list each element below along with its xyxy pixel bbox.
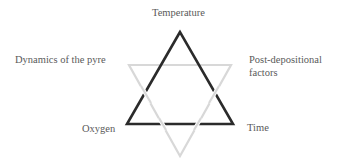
label-post-depositional-line1: Post-depositional	[249, 53, 322, 66]
hexagram-diagram	[0, 0, 345, 159]
label-temperature: Temperature	[152, 6, 205, 19]
label-time: Time	[247, 121, 269, 134]
label-dynamics-of-the-pyre: Dynamics of the pyre	[15, 53, 106, 66]
label-oxygen: Oxygen	[82, 122, 115, 135]
light-triangle	[129, 65, 231, 156]
dark-triangle	[127, 32, 233, 124]
label-post-depositional-line2: factors	[249, 66, 278, 79]
